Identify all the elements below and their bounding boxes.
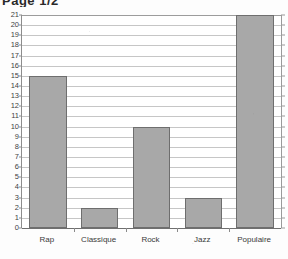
y-axis-tick-mark — [19, 65, 22, 66]
page-canvas: Page 1/2 0123456789101112131415161718192… — [0, 0, 288, 259]
y-axis-tick-mark-right — [281, 167, 285, 168]
x-axis-label-rap: Rap — [40, 236, 55, 244]
y-axis-tick-mark — [19, 75, 22, 76]
y-axis-tick-mark — [19, 146, 22, 147]
y-axis-tick-mark-right — [281, 55, 285, 56]
y-axis-tick-label: 20 — [11, 21, 19, 29]
y-axis-tick-mark — [19, 25, 22, 26]
y-axis-tick-mark — [19, 35, 22, 36]
y-axis-tick-mark — [19, 197, 22, 198]
y-axis-tick-mark — [19, 177, 22, 178]
y-axis-tick-mark — [19, 228, 22, 229]
y-axis-tick-label: 4 — [15, 184, 19, 192]
y-axis-tick-label: 13 — [11, 92, 19, 100]
y-axis-tick-mark — [19, 126, 22, 127]
y-axis-tick-label: 19 — [11, 32, 19, 40]
x-axis-label-rock: Rock — [141, 236, 159, 244]
y-axis-tick-label: 16 — [11, 62, 19, 70]
y-axis-tick-label: 11 — [11, 113, 19, 121]
y-axis-tick-mark-right — [281, 197, 285, 198]
y-axis-tick-label: 10 — [11, 123, 19, 131]
y-axis-tick-mark-right — [281, 217, 285, 218]
y-axis-tick-mark-right — [281, 45, 285, 46]
y-axis-tick-label: 9 — [15, 133, 19, 141]
y-axis-tick-mark — [19, 96, 22, 97]
y-axis-tick-mark — [19, 45, 22, 46]
plot-area: 0123456789101112131415161718192021 — [21, 15, 282, 228]
y-axis-tick-mark-right — [281, 116, 285, 117]
y-axis-tick-mark — [19, 207, 22, 208]
y-axis-tick-mark-right — [281, 157, 285, 158]
x-axis-label-jazz: Jazz — [194, 236, 210, 244]
y-axis-tick-mark-right — [281, 228, 285, 229]
x-axis-tick-mark — [126, 228, 127, 232]
bar-rock[interactable] — [133, 127, 170, 228]
y-axis-tick-label: 21 — [11, 11, 19, 19]
y-axis-tick-mark-right — [281, 126, 285, 127]
y-axis-tick-mark-right — [281, 207, 285, 208]
gridline — [22, 228, 281, 229]
x-axis-tick-mark — [229, 228, 230, 232]
y-axis-tick-mark-right — [281, 96, 285, 97]
y-axis-tick-mark — [19, 187, 22, 188]
y-axis-tick-label: 15 — [11, 72, 19, 80]
y-axis-tick-label: 17 — [11, 52, 19, 60]
y-axis-tick-mark — [19, 136, 22, 137]
x-axis-label-populaire: Populaire — [237, 236, 271, 244]
y-axis-tick-mark — [19, 106, 22, 107]
y-axis-tick-mark-right — [281, 136, 285, 137]
y-axis-tick-mark-right — [281, 25, 285, 26]
y-axis-tick-mark-right — [281, 86, 285, 87]
y-axis-tick-label: 7 — [15, 153, 19, 161]
y-axis-tick-mark — [19, 157, 22, 158]
y-axis-tick-mark-right — [281, 15, 285, 16]
y-axis-tick-label: 8 — [15, 143, 19, 151]
bar-populaire[interactable] — [236, 15, 273, 228]
y-axis-tick-label: 6 — [15, 163, 19, 171]
y-axis-tick-mark — [19, 15, 22, 16]
y-axis-tick-mark-right — [281, 187, 285, 188]
y-axis-tick-label: 12 — [11, 103, 19, 111]
y-axis-tick-mark-right — [281, 35, 285, 36]
bar-chart: 0123456789101112131415161718192021 RapCl… — [0, 0, 288, 259]
y-axis-tick-mark — [19, 167, 22, 168]
bar-jazz[interactable] — [185, 198, 222, 228]
x-axis-tick-mark — [74, 228, 75, 232]
bar-rap[interactable] — [29, 76, 66, 228]
y-axis-tick-label: 3 — [15, 194, 19, 202]
y-axis-tick-label: 14 — [11, 82, 19, 90]
y-axis-tick-mark-right — [281, 177, 285, 178]
y-axis-tick-mark-right — [281, 75, 285, 76]
bar-classique[interactable] — [81, 208, 118, 228]
y-axis-tick-label: 5 — [15, 174, 19, 182]
y-axis-tick-mark — [19, 116, 22, 117]
y-axis-tick-mark-right — [281, 65, 285, 66]
y-axis-tick-label: 0 — [15, 224, 19, 232]
x-axis-label-classique: Classique — [81, 236, 116, 244]
y-axis-tick-mark — [19, 86, 22, 87]
y-axis-tick-label: 18 — [11, 42, 19, 50]
y-axis-tick-mark — [19, 55, 22, 56]
y-axis-tick-label: 1 — [15, 214, 19, 222]
x-axis-tick-mark — [177, 228, 178, 232]
y-axis-tick-mark — [19, 217, 22, 218]
y-axis-tick-mark-right — [281, 106, 285, 107]
y-axis-tick-label: 2 — [15, 204, 19, 212]
y-axis-tick-mark-right — [281, 146, 285, 147]
